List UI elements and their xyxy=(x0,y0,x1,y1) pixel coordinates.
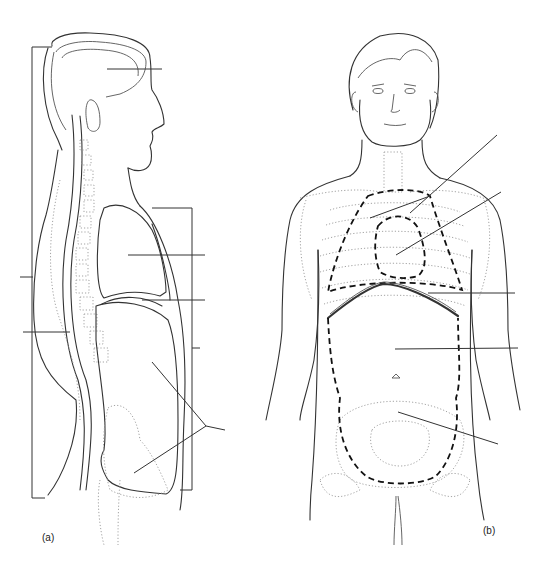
body-cavities-diagram xyxy=(0,0,545,563)
panel-label-b: (b) xyxy=(483,525,495,536)
panel-label-a: (a) xyxy=(42,532,54,543)
anterior-figure xyxy=(266,33,520,545)
lateral-figure xyxy=(20,33,225,545)
